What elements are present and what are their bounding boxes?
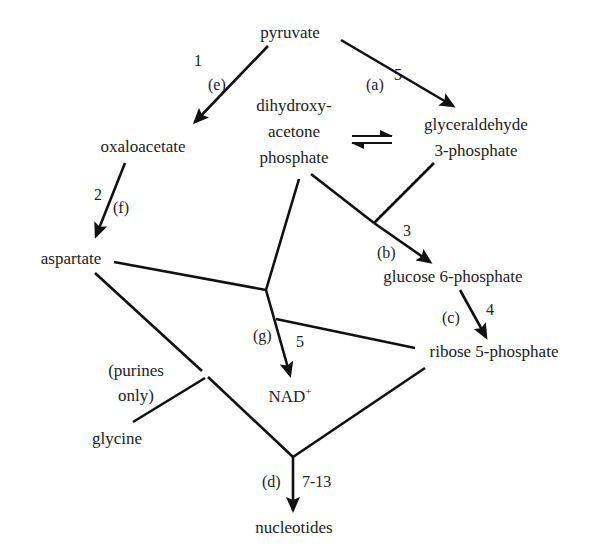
pathway-diagram: pyruvate oxaloacetate dihydroxy- acetone… <box>0 0 616 552</box>
arrow-g6p-to-r5p <box>460 290 486 337</box>
step-c-letter: (c) <box>442 309 460 327</box>
node-g3p-line1: glyceraldehyde <box>424 115 528 134</box>
line-g3p-to-merge <box>374 163 434 223</box>
node-nucleotides: nucleotides <box>255 518 332 537</box>
line-dhap-to-nad-junction <box>266 179 299 290</box>
step-g-letter: (g) <box>253 327 272 345</box>
step-7-13-number: 7-13 <box>302 473 331 490</box>
line-dhap-to-merge <box>311 174 374 223</box>
step-f-letter: (f) <box>113 199 129 217</box>
line-aspartate-to-nucleotide-junction-upper <box>95 273 202 371</box>
step-b-letter: (b) <box>377 244 396 262</box>
step-1-number: 1 <box>194 52 202 69</box>
node-pyruvate: pyruvate <box>260 23 319 42</box>
nad-superscript: + <box>305 385 311 397</box>
node-purines-line2: only) <box>118 386 154 405</box>
node-dhap-line3: phosphate <box>260 148 329 167</box>
step-4-number: 4 <box>486 301 494 318</box>
node-dhap-line1: dihydroxy- <box>256 96 332 115</box>
step-2-number: 2 <box>94 186 102 203</box>
node-nad: NAD+ <box>268 385 311 406</box>
node-ribose-5-phosphate: ribose 5-phosphate <box>430 342 559 361</box>
node-purines-line1: (purines <box>108 361 164 380</box>
node-glycine: glycine <box>92 429 142 448</box>
node-g3p-line2: 3-phosphate <box>434 141 517 160</box>
step-a-letter: (a) <box>366 76 384 94</box>
node-glucose-6-phosphate: glucose 6-phosphate <box>383 267 522 286</box>
node-oxaloacetate: oxaloacetate <box>101 137 186 156</box>
line-ribose-to-nucleotide-junction <box>293 368 425 457</box>
node-aspartate: aspartate <box>41 249 101 268</box>
step-3-number: 3 <box>403 222 411 239</box>
line-aspartate-to-nad-junction <box>114 262 266 290</box>
step-5g-number: 5 <box>296 333 304 350</box>
equilibrium-arrows-icon <box>351 130 393 149</box>
node-dhap-line2: acetone <box>268 122 320 141</box>
step-d-letter: (d) <box>262 473 281 491</box>
arrow-pyruvate-to-g3p <box>341 40 453 106</box>
